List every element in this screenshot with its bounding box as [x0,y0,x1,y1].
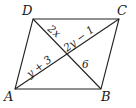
segment-label-eb: 6 [82,58,89,70]
diagram-canvas: A B C D 2x 2y − 1 y + 3 6 [0,0,136,108]
vertex-label-a: A [3,89,13,104]
segment-label-de: 2x [45,22,63,40]
vertex-label-c: C [117,3,127,18]
vertex-label-b: B [100,89,111,104]
vertex-label-d: D [21,3,33,18]
parallelogram-diagram: A B C D 2x 2y − 1 y + 3 6 [0,0,136,108]
